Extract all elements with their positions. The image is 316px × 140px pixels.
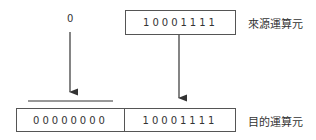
destination-high-bits-box: 00000000 [16,108,125,132]
zero-constant: 0 [67,13,73,24]
source-operand-label: 來源運算元 [248,15,303,31]
destination-operand-label: 目的運算元 [248,113,303,129]
destination-low-bits-box: 10001111 [124,108,236,132]
source-operand-box: 10001111 [125,10,236,35]
